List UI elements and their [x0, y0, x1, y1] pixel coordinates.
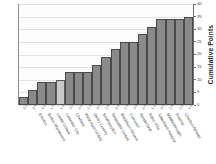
bar[interactable]	[138, 34, 147, 105]
x-axis-category-labels: EvertonBolton WanderersLeeds UnitedLeice…	[19, 112, 193, 162]
y-axis-title: Cumulative Points	[205, 4, 216, 105]
tick-mark	[194, 4, 196, 5]
category-label-slot: Leeds United	[56, 112, 65, 162]
bar[interactable]	[65, 72, 74, 105]
bar[interactable]	[83, 72, 92, 105]
tick-mark	[194, 67, 196, 68]
tick-label: 10	[197, 78, 201, 82]
category-label-slot: Chelsea	[74, 112, 83, 162]
tick-label: 15	[197, 65, 201, 69]
tick-label: 5	[197, 90, 199, 94]
category-label-slot: Southampton	[101, 112, 110, 162]
bar[interactable]	[74, 72, 83, 105]
tick-label: 25	[197, 40, 201, 44]
category-label-slot: Arsenal	[175, 112, 184, 162]
bar-slot	[37, 4, 46, 105]
bar[interactable]	[46, 82, 55, 105]
bar[interactable]	[101, 57, 110, 105]
category-label-slot: Charlton Athletic	[184, 112, 193, 162]
bar-series	[19, 4, 193, 105]
tick-mark	[194, 105, 196, 106]
bar-slot	[74, 4, 83, 105]
bar[interactable]	[56, 80, 65, 105]
bar-slot	[129, 4, 138, 105]
category-label-slot: Liverpool	[129, 112, 138, 162]
bar-slot	[19, 4, 28, 105]
bar-slot	[111, 4, 120, 105]
bar-slot	[175, 4, 184, 105]
bar[interactable]	[37, 82, 46, 105]
category-label-slot: Derby County	[92, 112, 101, 162]
match-score-text: 1-0	[187, 104, 193, 111]
tick-mark	[194, 16, 196, 17]
category-label: Charlton Athletic	[184, 112, 203, 140]
category-label-slot: Leicester City	[65, 112, 74, 162]
bar-slot	[83, 4, 92, 105]
bar-slot	[138, 4, 147, 105]
cumulative-points-chart: 0510152025303540 Cumulative Points 3-24-…	[0, 0, 216, 164]
bar-slot	[101, 4, 110, 105]
y-axis-title-text: Cumulative Points	[207, 25, 214, 84]
bar[interactable]	[184, 17, 193, 105]
tick-label: 35	[197, 15, 201, 19]
category-label-slot	[19, 112, 28, 162]
bar-slot	[56, 4, 65, 105]
bar-slot	[46, 4, 55, 105]
category-label-slot	[28, 112, 37, 162]
bar-slot	[65, 4, 74, 105]
bar[interactable]	[156, 19, 165, 105]
bar[interactable]	[166, 19, 175, 105]
category-label-slot: Sunderland	[138, 112, 147, 162]
bar-slot	[147, 4, 156, 105]
bar-slot	[92, 4, 101, 105]
tick-mark	[194, 92, 196, 93]
bar[interactable]	[120, 42, 129, 105]
tick-label: 0	[197, 103, 199, 107]
bar-slot	[120, 4, 129, 105]
bar[interactable]	[92, 65, 101, 105]
tick-mark	[194, 41, 196, 42]
category-label-slot: West Ham United	[83, 112, 92, 162]
tick-mark	[194, 79, 196, 80]
bar-slot	[184, 4, 193, 105]
bar-slot	[166, 4, 175, 105]
category-label-slot: Aston Villa	[147, 112, 156, 162]
category-label-slot: Everton	[37, 112, 46, 162]
bar[interactable]	[28, 90, 37, 105]
bar[interactable]	[129, 42, 138, 105]
tick-mark	[194, 54, 196, 55]
tick-label: 40	[197, 2, 201, 6]
category-label-slot: Middlesbrough	[166, 112, 175, 162]
category-label-slot: Tottenham Hotspur	[156, 112, 165, 162]
category-label-slot: Newcastle United	[111, 112, 120, 162]
tick-label: 20	[197, 52, 201, 56]
bar-slot	[156, 4, 165, 105]
tick-mark	[194, 29, 196, 30]
bar[interactable]	[175, 19, 184, 105]
bar[interactable]	[111, 49, 120, 105]
bar[interactable]	[147, 27, 156, 105]
category-label-slot: Blackburn Rovers	[120, 112, 129, 162]
category-label-slot: Bolton Wanderers	[46, 112, 55, 162]
tick-label: 30	[197, 27, 201, 31]
bar-slot	[28, 4, 37, 105]
